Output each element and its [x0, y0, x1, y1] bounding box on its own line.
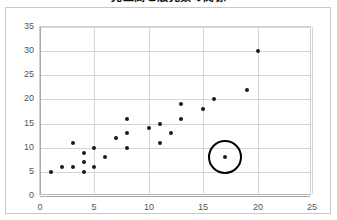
x-axis-tick-label: 5 [82, 202, 106, 212]
gridline-horizontal [40, 172, 310, 173]
data-point [158, 122, 162, 126]
data-point [71, 141, 75, 145]
data-point [125, 117, 129, 121]
data-point [82, 151, 86, 155]
y-axis-tick-label: 15 [10, 118, 34, 128]
y-axis-tick-label: 20 [10, 93, 34, 103]
data-point [114, 136, 118, 140]
gridline-vertical [312, 27, 313, 194]
gridline-vertical [40, 27, 41, 194]
data-point [82, 170, 86, 174]
chart-title: 売上高と販売数の関係 [0, 0, 337, 3]
y-axis-tick-label: 25 [10, 69, 34, 79]
plot-area: 051015202530350510152025 [39, 26, 311, 195]
y-axis-tick-label: 0 [10, 190, 34, 200]
data-point [212, 97, 216, 101]
data-point [125, 146, 129, 150]
data-point [147, 126, 151, 130]
data-point [125, 131, 129, 135]
data-point [256, 49, 260, 53]
y-axis-tick-label: 5 [10, 166, 34, 176]
chart-frame: 051015202530350510152025 [5, 7, 331, 214]
gridline-horizontal [40, 196, 310, 197]
data-point [169, 131, 173, 135]
data-point [92, 165, 96, 169]
scatter-chart-figure: 売上高と販売数の関係 051015202530350510152025 [0, 0, 337, 220]
data-point [71, 165, 75, 169]
data-point [245, 88, 249, 92]
x-axis-tick-label: 20 [246, 202, 270, 212]
data-point [179, 102, 183, 106]
gridline-horizontal [40, 27, 310, 28]
outlier-highlight-circle [208, 140, 242, 174]
gridline-horizontal [40, 51, 310, 52]
x-axis-tick-label: 0 [28, 202, 52, 212]
data-point [179, 117, 183, 121]
data-point [82, 160, 86, 164]
data-point [92, 146, 96, 150]
y-axis-tick-label: 10 [10, 142, 34, 152]
data-point [158, 141, 162, 145]
gridline-horizontal [40, 148, 310, 149]
y-axis-tick-label: 35 [10, 21, 34, 31]
data-point [103, 155, 107, 159]
gridline-vertical [149, 27, 150, 194]
gridline-horizontal [40, 99, 310, 100]
data-point [60, 165, 64, 169]
gridline-horizontal [40, 124, 310, 125]
y-axis-tick-label: 30 [10, 45, 34, 55]
data-point [49, 170, 53, 174]
gridline-horizontal [40, 75, 310, 76]
x-axis-tick-label: 15 [191, 202, 215, 212]
x-axis-tick-label: 10 [137, 202, 161, 212]
data-point [201, 107, 205, 111]
x-axis-tick-label: 25 [300, 202, 324, 212]
